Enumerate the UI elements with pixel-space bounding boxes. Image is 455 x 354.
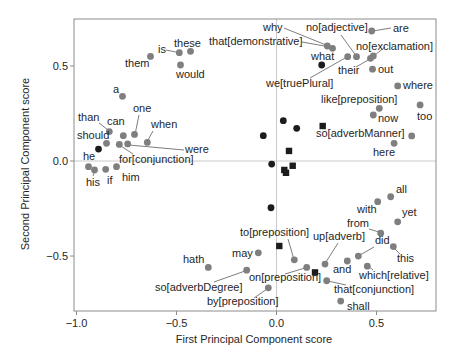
data-point-circle xyxy=(322,261,329,268)
point-label: and xyxy=(333,263,351,275)
data-point-circle xyxy=(394,83,401,90)
point-label: these xyxy=(174,37,201,49)
point-label: would xyxy=(175,68,205,80)
data-point-circle xyxy=(417,102,424,109)
point-label: no[exclamation] xyxy=(356,40,433,52)
data-point-circle xyxy=(102,166,109,173)
point-label: a xyxy=(113,83,120,95)
data-point-circle xyxy=(370,112,377,119)
point-label: did xyxy=(375,234,390,246)
data-point-circle xyxy=(337,298,344,305)
point-label: here xyxy=(373,146,395,158)
point-label: out xyxy=(378,63,393,75)
data-point-circle xyxy=(144,139,151,146)
point-label: from xyxy=(347,217,369,229)
point-label: by[preposition] xyxy=(207,295,279,307)
point-label: when xyxy=(150,118,177,130)
point-label: shall xyxy=(347,300,370,312)
point-label: why xyxy=(262,21,283,33)
point-label: which[relative] xyxy=(358,269,429,281)
point-label: should xyxy=(77,129,109,141)
point-label: with xyxy=(356,203,377,215)
data-point-circle xyxy=(95,146,102,153)
y-axis-title: Second Principal Component score xyxy=(19,78,31,250)
point-label: were xyxy=(184,143,209,155)
point-label: is xyxy=(158,43,166,55)
x-axis-title: First Principal Component score xyxy=(176,333,333,345)
data-point-square xyxy=(286,148,292,154)
data-point-circle xyxy=(368,28,375,35)
point-label: one xyxy=(133,102,151,114)
data-point-circle xyxy=(116,141,123,148)
data-point-circle xyxy=(293,125,300,132)
data-point-circle xyxy=(268,161,275,168)
point-label: what xyxy=(310,50,334,62)
y-tick-label: −0.5 xyxy=(46,250,68,262)
point-label: yet xyxy=(402,206,417,218)
data-point-circle xyxy=(85,163,92,170)
point-label: may xyxy=(232,247,253,259)
point-label: so[adverbManner] xyxy=(316,127,405,139)
point-label: to[preposition] xyxy=(240,226,309,238)
point-label: where xyxy=(402,79,433,91)
data-point-circle xyxy=(265,284,272,291)
data-point-circle xyxy=(318,62,325,69)
point-label: his xyxy=(86,176,101,188)
point-label: he xyxy=(83,150,95,162)
x-tick-label: −0.5 xyxy=(166,317,188,329)
data-point-square xyxy=(283,170,289,176)
data-point-square xyxy=(276,243,282,249)
y-tick-label: 0.5 xyxy=(53,60,68,72)
data-point-circle xyxy=(255,249,262,256)
data-point-circle xyxy=(390,243,397,250)
point-label: like[preposition] xyxy=(321,93,397,105)
point-label: can xyxy=(107,115,125,127)
point-label: too xyxy=(417,110,432,122)
point-label: than xyxy=(78,111,99,123)
data-point-circle xyxy=(119,93,126,100)
data-point-circle xyxy=(353,53,360,60)
point-label: that[conjunction] xyxy=(334,283,414,295)
point-label: all xyxy=(396,183,407,195)
point-label: hath xyxy=(183,253,204,265)
point-label: this xyxy=(397,252,415,264)
pca-scatter-chart: −1.0−0.50.00.5 −0.50.00.5 First Principa… xyxy=(0,0,455,354)
data-point-circle xyxy=(369,66,376,73)
data-point-circle xyxy=(370,52,377,59)
data-point-circle xyxy=(344,53,351,60)
data-point-circle xyxy=(91,167,98,174)
point-label: if xyxy=(107,174,113,186)
data-point-circle xyxy=(355,253,362,260)
data-point-circle xyxy=(394,218,401,225)
data-point-circle xyxy=(376,105,383,112)
data-point-circle xyxy=(176,49,183,56)
x-tick-label: 0.0 xyxy=(269,317,284,329)
point-label: we[truePlural] xyxy=(265,77,333,89)
point-label: on[preposition] xyxy=(249,271,321,283)
point-label: for[conjunction] xyxy=(119,153,194,165)
data-point-circle xyxy=(205,264,212,271)
data-point-circle xyxy=(124,140,131,147)
point-label: up[adverb] xyxy=(313,230,365,242)
point-label: now xyxy=(378,112,398,124)
point-label: them xyxy=(125,57,149,69)
data-point-circle xyxy=(303,264,310,271)
data-point-circle xyxy=(291,256,298,263)
x-tick-label: −1.0 xyxy=(66,317,88,329)
data-point-circle xyxy=(323,277,330,284)
data-point-circle xyxy=(120,132,127,139)
data-point-circle xyxy=(387,193,394,200)
data-point-circle xyxy=(260,132,267,139)
data-point-circle xyxy=(408,133,415,140)
point-label: him xyxy=(122,171,140,183)
point-label: are xyxy=(393,22,409,34)
data-point-circle xyxy=(268,204,275,211)
y-tick-label: 0.0 xyxy=(53,155,68,167)
data-point-square xyxy=(290,163,296,169)
point-label: so[adverbDegree] xyxy=(155,281,242,293)
point-label: no[adjective] xyxy=(306,21,368,33)
x-tick-label: 0.5 xyxy=(369,317,384,329)
point-label: their xyxy=(338,64,360,76)
data-point-circle xyxy=(280,117,287,124)
point-label: that[demonstrative] xyxy=(209,35,303,47)
